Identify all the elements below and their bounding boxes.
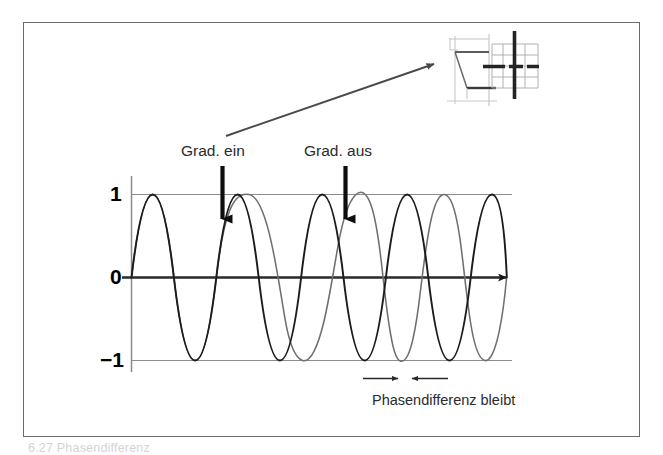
k-space-trajectory-inset [447, 31, 546, 106]
y-axis-tick-label-one: 1 [110, 183, 122, 204]
phase-difference-label: Phasendifferenz bleibt [372, 393, 515, 408]
y-axis-tick-label-negative-one: −1 [100, 349, 124, 370]
gradient-event-markers [223, 166, 346, 219]
gradient-off-label: Grad. aus [304, 143, 372, 159]
inset-ramp-line [455, 52, 467, 88]
arrow-to-kspace-inset [226, 64, 434, 136]
figure-caption: 6.27 Phasendifferenz [28, 441, 150, 454]
gradient-on-label: Grad. ein [181, 143, 245, 159]
y-axis-tick-label-zero: 0 [110, 266, 122, 287]
inset-corner-mark [450, 38, 458, 50]
diagram-canvas [0, 0, 663, 455]
